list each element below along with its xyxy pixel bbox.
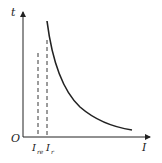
svg-text:re: re bbox=[37, 148, 44, 155]
origin-label: O bbox=[11, 132, 20, 145]
x-axis-label: I bbox=[141, 141, 147, 154]
tick-label-ire: I re bbox=[31, 142, 44, 155]
svg-text:r: r bbox=[51, 148, 55, 155]
tick-label-ir: I r bbox=[45, 142, 55, 155]
inverse-time-curve bbox=[47, 21, 132, 130]
inverse-time-diagram: t O I I re I r bbox=[0, 0, 162, 163]
y-axis-label: t bbox=[11, 6, 16, 19]
